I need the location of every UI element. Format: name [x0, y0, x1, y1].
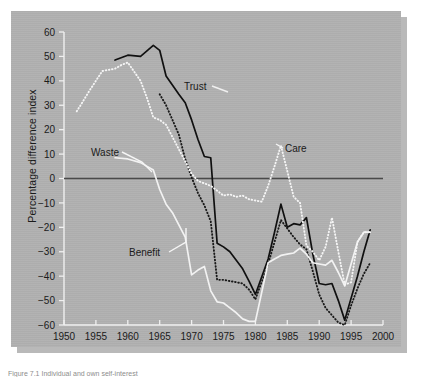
series-group — [77, 45, 370, 325]
series-label-trust: Trust — [184, 81, 207, 92]
x-tick-label: 1995 — [340, 331, 363, 342]
label-leader-lines — [122, 86, 283, 252]
x-axis-ticks: 1950195519601965197019751980198519901995… — [53, 320, 395, 342]
series-line-benefit — [160, 94, 371, 325]
y-tick-label: −60 — [38, 320, 55, 331]
x-tick-label: 1990 — [308, 331, 331, 342]
series-line-care — [77, 63, 370, 285]
y-tick-label: −50 — [38, 295, 55, 306]
x-tick-label: 1985 — [276, 331, 299, 342]
x-tick-label: 2000 — [372, 331, 395, 342]
y-tick-label: −30 — [38, 246, 55, 257]
x-tick-label: 1960 — [117, 331, 140, 342]
x-tick-label: 1955 — [85, 331, 108, 342]
series-label-waste: Waste — [91, 147, 119, 158]
x-tick-label: 1980 — [244, 331, 267, 342]
y-tick-label: 60 — [44, 27, 56, 38]
figure-root: Percentage difference index 605040302010… — [0, 0, 424, 378]
series-line-waste — [115, 158, 370, 322]
y-tick-label: −10 — [38, 198, 55, 209]
figure-caption: Figure 7.1 Individual and own self-inter… — [8, 370, 418, 377]
x-tick-label: 1970 — [180, 331, 203, 342]
y-tick-label: 20 — [44, 124, 56, 135]
x-tick-label: 1950 — [53, 331, 76, 342]
y-tick-label: −20 — [38, 222, 55, 233]
y-tick-label: 30 — [44, 100, 56, 111]
y-tick-label: −40 — [38, 271, 55, 282]
line-chart: 6050403020100−10−20−30−40−50−60 19501955… — [0, 0, 424, 378]
y-tick-label: 50 — [44, 51, 56, 62]
series-line-trust — [115, 45, 370, 320]
x-tick-label: 1975 — [212, 331, 235, 342]
series-label-benefit: Benefit — [129, 247, 160, 258]
x-tick-label: 1965 — [149, 331, 172, 342]
y-axis-ticks: 6050403020100−10−20−30−40−50−60 — [38, 27, 64, 331]
series-label-care: Care — [285, 143, 307, 154]
y-tick-label: 40 — [44, 75, 56, 86]
leader-line-benefit — [169, 228, 186, 252]
y-tick-label: 0 — [49, 173, 55, 184]
leader-line-trust — [212, 86, 228, 92]
y-tick-label: 10 — [44, 149, 56, 160]
